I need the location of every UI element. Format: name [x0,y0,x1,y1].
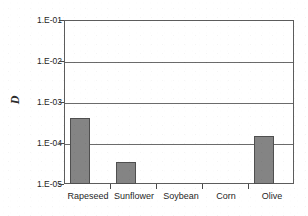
x-tick-mark-4 [248,184,249,189]
x-tick-mark-2 [156,184,157,189]
y-tick-label-1e-01: 1.E-01 [14,16,62,25]
x-category-label-olive: Olive [250,191,294,202]
x-tick-mark-1 [110,184,111,189]
y-tick-mark-1e-05 [59,184,64,185]
x-category-label-rapeseed: Rapeseed [62,191,114,202]
bar-olive[interactable] [254,136,274,184]
y-tick-label-1e-04: 1.E-04 [14,139,62,148]
y-tick-label-1e-02: 1.E-02 [14,57,62,66]
y-tick-label-1e-05: 1.E-05 [14,180,62,189]
bar-sunflower[interactable] [116,162,136,184]
x-category-label-soybean: Soybean [156,191,206,202]
x-category-label-corn: Corn [204,191,248,202]
x-tick-mark-3 [202,184,203,189]
y-tick-label-1e-03: 1.E-03 [14,98,62,107]
bars-layer [64,20,294,184]
bar-chart-figure: D 1.E-01 1.E-02 1.E-03 1.E-04 1.E-05 Rap… [0,0,308,216]
x-category-label-sunflower: Sunflower [108,191,160,202]
bar-rapeseed[interactable] [70,118,90,184]
